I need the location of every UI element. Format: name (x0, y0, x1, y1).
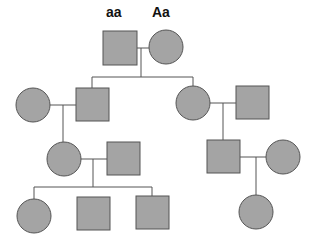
connection-lines (34, 48, 266, 199)
male-individual-square (103, 31, 137, 65)
male-individual-square (207, 140, 240, 173)
female-individual-circle (266, 140, 300, 174)
pedigree-chart (0, 0, 314, 248)
female-individual-circle (176, 86, 210, 120)
male-individual-square (77, 197, 110, 230)
female-individual-circle (17, 199, 51, 233)
male-individual-square (236, 86, 269, 119)
female-individual-circle (149, 30, 183, 64)
individuals (16, 30, 300, 233)
female-individual-circle (47, 142, 81, 176)
male-individual-square (76, 88, 109, 121)
male-individual-square (136, 196, 169, 229)
male-individual-square (107, 142, 140, 175)
female-individual-circle (16, 88, 50, 122)
female-individual-circle (239, 195, 273, 229)
